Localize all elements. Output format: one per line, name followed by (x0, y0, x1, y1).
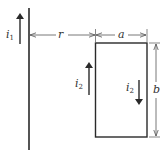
loop-right-current-label: i2 (126, 81, 134, 95)
wire-loop-diagram: i1 r a b i2 i2 (0, 0, 168, 154)
loop-right-current-subscript: 2 (130, 87, 134, 95)
loop-left-current-label: i2 (75, 77, 83, 91)
width-label: a (118, 28, 125, 41)
wire-current-subscript: 1 (10, 34, 14, 42)
distance-label: r (58, 28, 64, 41)
height-label: b (153, 83, 160, 96)
loop-left-current-subscript: 2 (79, 83, 83, 91)
wire-current-label: i1 (6, 28, 14, 42)
